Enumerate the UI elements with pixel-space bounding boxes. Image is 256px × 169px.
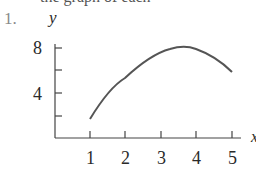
x-axis	[55, 131, 241, 138]
chart-plot	[0, 0, 256, 169]
data-curve	[90, 47, 232, 119]
y-axis	[55, 44, 62, 138]
